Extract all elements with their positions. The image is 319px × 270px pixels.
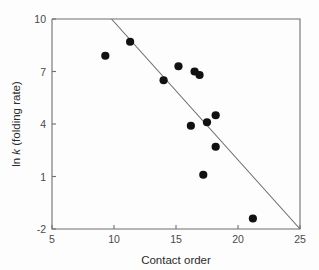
x-axis-ticks: 510152025 bbox=[49, 225, 306, 245]
chart-figure: 10741-2 510152025 Contact order ln k (fo… bbox=[0, 0, 319, 270]
data-point bbox=[187, 122, 195, 130]
y-axis-ticks: 10741-2 bbox=[34, 13, 56, 235]
x-axis-title: Contact order bbox=[141, 254, 211, 266]
data-point bbox=[160, 76, 168, 84]
y-axis-title-group: ln k (folding rate) bbox=[10, 81, 22, 167]
plot-frame bbox=[52, 19, 300, 229]
x-tick-label: 20 bbox=[232, 233, 244, 245]
x-tick-label: 15 bbox=[170, 233, 182, 245]
axis-frame bbox=[52, 19, 300, 229]
data-point bbox=[249, 214, 257, 222]
data-point bbox=[126, 38, 134, 46]
data-point bbox=[101, 52, 109, 60]
y-tick-label: 7 bbox=[40, 66, 46, 78]
x-tick-label: 5 bbox=[49, 233, 55, 245]
y-tick-label: 1 bbox=[40, 171, 46, 183]
data-point bbox=[195, 71, 203, 79]
data-point bbox=[174, 62, 182, 70]
y-tick-label: 4 bbox=[40, 118, 46, 130]
x-tick-label: 10 bbox=[108, 233, 120, 245]
data-point bbox=[212, 143, 220, 151]
y-tick-label: -2 bbox=[37, 223, 46, 235]
data-point bbox=[212, 111, 220, 119]
scatter-plot: 10741-2 510152025 Contact order ln k (fo… bbox=[0, 0, 319, 270]
data-point bbox=[203, 118, 211, 126]
data-points bbox=[101, 38, 257, 223]
data-point bbox=[199, 171, 207, 179]
x-tick-label: 25 bbox=[294, 233, 306, 245]
y-axis-title: ln k (folding rate) bbox=[10, 81, 22, 167]
y-tick-label: 10 bbox=[34, 13, 46, 25]
